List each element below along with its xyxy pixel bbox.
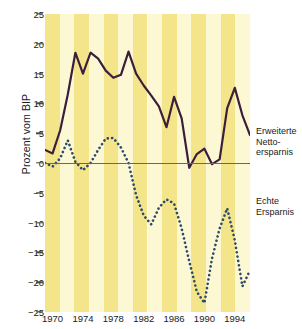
x-axis-tick-label: 1994	[224, 313, 245, 324]
x-axis-tick-label: 1970	[42, 313, 63, 324]
chart-container: Prozent vom BIP 2520151050−5−10−15−20−25…	[0, 0, 302, 329]
legend-echte-ersparnis: EchteErsparnis	[256, 196, 302, 217]
legend-label-line: Echte	[256, 196, 302, 207]
legend-label-line: Erweiterte	[256, 126, 302, 137]
legend-label-line: Ersparnis	[256, 207, 302, 218]
x-axis-tick-label: 1982	[133, 313, 154, 324]
x-axis-tick-labels: 1970197419781982198619901994	[0, 0, 302, 329]
x-axis-tick-label: 1974	[72, 313, 93, 324]
x-axis-tick-label: 1986	[163, 313, 184, 324]
x-axis-tick-label: 1990	[194, 313, 215, 324]
legend-label-line: ersparnis	[256, 147, 302, 158]
legend-label-line: Netto-	[256, 137, 302, 148]
legend-erweiterte-nettoersparnis: ErweiterteNetto-ersparnis	[256, 126, 302, 158]
x-axis-tick-label: 1978	[103, 313, 124, 324]
